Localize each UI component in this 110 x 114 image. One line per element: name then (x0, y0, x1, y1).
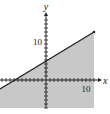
x-tick-label-10: 10 (82, 84, 92, 94)
shaded-region (0, 32, 94, 108)
y-axis-label: y (43, 1, 49, 12)
x-axis-arrow-icon (98, 78, 102, 82)
y-axis-arrow-icon (44, 12, 48, 16)
line-endpoint (93, 31, 96, 34)
x-axis-label: x (102, 75, 108, 86)
inequality-graph: x y 10 10 (0, 0, 110, 114)
y-tick-label-10: 10 (33, 37, 43, 47)
